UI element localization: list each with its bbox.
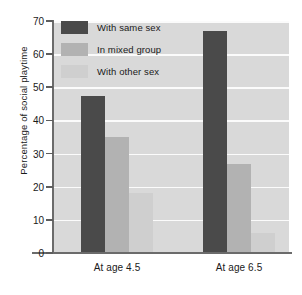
y-tick-label: 20 bbox=[16, 181, 44, 192]
y-tick-mark bbox=[46, 86, 53, 88]
bar bbox=[105, 137, 129, 253]
legend-item: In mixed group bbox=[61, 39, 211, 60]
gridline bbox=[53, 87, 289, 89]
y-tick-label: 60 bbox=[16, 49, 44, 60]
bar bbox=[251, 233, 275, 253]
y-tick-mark bbox=[46, 153, 53, 155]
legend-label: With other sex bbox=[97, 66, 159, 77]
bar bbox=[81, 96, 105, 253]
y-tick-label: 50 bbox=[16, 82, 44, 93]
y-tick-label: 0 bbox=[16, 248, 44, 259]
legend-item: With same sex bbox=[61, 17, 211, 38]
bar bbox=[129, 193, 153, 253]
y-tick-mark bbox=[46, 53, 53, 55]
y-tick-label: 70 bbox=[16, 16, 44, 27]
legend-swatch-icon bbox=[61, 43, 88, 56]
bar bbox=[227, 164, 251, 253]
x-axis-label: At age 4.5 bbox=[67, 262, 167, 273]
legend-swatch-icon bbox=[61, 65, 88, 78]
bar-chart: Percentage of social playtime 0102030405… bbox=[0, 0, 302, 295]
x-axis-label: At age 6.5 bbox=[189, 262, 289, 273]
legend-swatch-icon bbox=[61, 21, 88, 34]
y-tick-mark bbox=[46, 186, 53, 188]
y-tick-mark bbox=[46, 252, 53, 254]
y-tick-mark bbox=[46, 20, 53, 22]
legend-label: In mixed group bbox=[97, 44, 161, 55]
legend-item: With other sex bbox=[61, 61, 211, 82]
legend-label: With same sex bbox=[97, 22, 161, 33]
x-axis-line bbox=[32, 252, 292, 254]
y-tick-label: 40 bbox=[16, 115, 44, 126]
legend: With same sexIn mixed groupWith other se… bbox=[61, 17, 211, 83]
y-tick-mark bbox=[46, 219, 53, 221]
y-tick-label: 30 bbox=[16, 148, 44, 159]
y-tick-label: 10 bbox=[16, 214, 44, 225]
y-tick-mark bbox=[46, 120, 53, 122]
